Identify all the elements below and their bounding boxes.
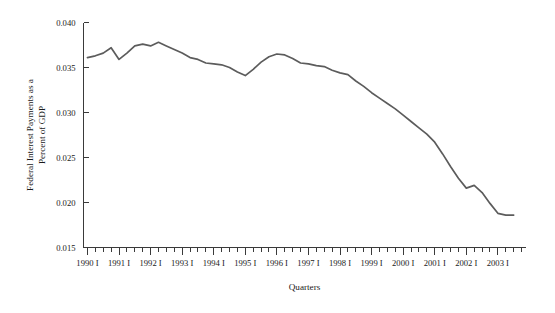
- axes: [84, 23, 526, 248]
- y-tick-label: 0.030: [56, 108, 75, 118]
- y-tick-label: 0.040: [56, 18, 75, 28]
- line-chart: 0.0400.0350.0300.0250.0200.015 1990 I199…: [0, 0, 555, 313]
- x-tick-label: 2000 I: [392, 258, 414, 268]
- x-tick-label: 1993 I: [171, 258, 193, 268]
- x-tick-label: 1997 I: [297, 258, 319, 268]
- x-tick-label: 2001 I: [424, 258, 446, 268]
- x-tick-label: 1998 I: [329, 258, 351, 268]
- x-tick-label: 1996 I: [266, 258, 288, 268]
- y-tick-label: 0.015: [56, 243, 75, 253]
- y-axis-title-line2: Percent of GDP: [37, 106, 47, 164]
- y-tick-label: 0.035: [56, 63, 75, 73]
- x-tick-label: 2003 I: [487, 258, 509, 268]
- x-axis-title: Quarters: [289, 282, 321, 292]
- chart-figure: 0.0400.0350.0300.0250.0200.015 1990 I199…: [0, 0, 555, 313]
- x-tick-label: 1995 I: [234, 258, 256, 268]
- x-tick-label: 1999 I: [360, 258, 382, 268]
- x-tick-label: 2002 I: [455, 258, 477, 268]
- x-tick-label: 1990 I: [76, 258, 98, 268]
- x-tick-label: 1991 I: [108, 258, 130, 268]
- x-tick-label: 1992 I: [139, 258, 161, 268]
- y-axis-title-line1: Federal Interest Payments as a: [25, 79, 35, 191]
- y-tick-label: 0.025: [56, 153, 75, 163]
- x-tick-label: 1994 I: [203, 258, 225, 268]
- series-line-interest-payments: [87, 42, 513, 215]
- x-axis-ticks: 1990 I1991 I1992 I1993 I1994 I1995 I1996…: [76, 248, 521, 268]
- y-tick-label: 0.020: [56, 198, 75, 208]
- data-series: [87, 42, 513, 215]
